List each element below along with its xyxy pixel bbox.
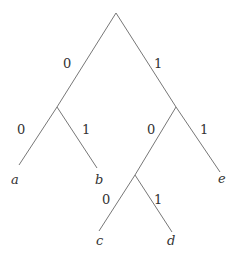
edge-right-internal — [135, 107, 176, 175]
edge-label-rl-left: 0 — [102, 193, 110, 206]
edge-label-right-right: 1 — [200, 123, 208, 136]
leaf-c: c — [96, 234, 103, 247]
edge-label-left-right: 1 — [82, 123, 90, 136]
edge-label-rl-right: 1 — [154, 193, 162, 206]
leaf-b: b — [95, 173, 103, 186]
edge-root-right — [116, 13, 176, 107]
leaf-d: d — [167, 234, 175, 247]
edge-label-right-left: 0 — [147, 123, 155, 136]
edge-label-left-left: 0 — [17, 123, 25, 136]
edge-label-root-left: 0 — [63, 57, 71, 70]
leaf-a: a — [11, 173, 19, 186]
edge-label-root-right: 1 — [154, 57, 162, 70]
edge-left-b — [57, 107, 97, 168]
edge-right-e — [176, 107, 220, 172]
leaf-e: e — [218, 172, 226, 185]
